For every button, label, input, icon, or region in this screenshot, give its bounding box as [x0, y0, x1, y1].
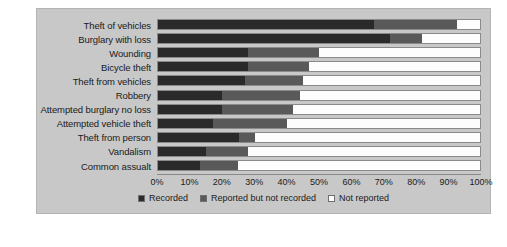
- stacked-bar: [157, 75, 481, 86]
- x-tick-label: 0%: [150, 177, 163, 187]
- bar-segment: [200, 161, 239, 170]
- stacked-bar: [157, 118, 481, 129]
- legend-label: Recorded: [149, 193, 188, 203]
- chart-legend: RecordedReported but not recordedNot rep…: [37, 193, 490, 203]
- stacked-bar: [157, 132, 481, 143]
- bar-segment: [293, 105, 480, 114]
- stacked-bar: [157, 61, 481, 72]
- bar-segment: [158, 133, 239, 142]
- chart-panel: Theft of vehiclesBurglary with lossWound…: [36, 8, 491, 214]
- category-label: Common assualt: [35, 160, 151, 173]
- stacked-bar: [157, 90, 481, 101]
- bar-segment: [158, 105, 222, 114]
- x-tick-label: 100%: [469, 177, 492, 187]
- x-tick-label: 20%: [213, 177, 231, 187]
- bar-segment: [158, 161, 200, 170]
- legend-label: Reported but not recorded: [211, 193, 316, 203]
- bar-segment: [255, 133, 480, 142]
- category-label: Burglary with loss: [35, 33, 151, 46]
- x-tick-label: 70%: [375, 177, 393, 187]
- category-label: Bicycle theft: [35, 61, 151, 74]
- bar-segment: [248, 147, 480, 156]
- bar-segment: [457, 20, 480, 29]
- bar-segment: [158, 147, 206, 156]
- bar-segment: [239, 133, 255, 142]
- x-tick-label: 80%: [407, 177, 425, 187]
- bar-segment: [158, 91, 222, 100]
- stacked-bar: [157, 47, 481, 58]
- x-tick-label: 50%: [310, 177, 328, 187]
- bar-row: Vandalism: [37, 145, 481, 159]
- legend-swatch: [138, 195, 145, 202]
- bar-segment: [158, 119, 213, 128]
- bar-segment: [303, 76, 480, 85]
- bar-segment: [319, 48, 480, 57]
- legend-label: Not reported: [339, 193, 389, 203]
- stacked-bar: [157, 19, 481, 30]
- x-tick-label: 30%: [245, 177, 263, 187]
- bar-row: Theft from vehicles: [37, 74, 481, 88]
- bar-row: Common assualt: [37, 159, 481, 173]
- bar-segment: [238, 161, 480, 170]
- bar-segment: [248, 48, 319, 57]
- stacked-bar: [157, 104, 481, 115]
- bar-row: Theft of vehicles: [37, 18, 481, 32]
- x-tick-label: 10%: [180, 177, 198, 187]
- category-label: Attempted burglary no loss: [35, 103, 151, 116]
- bar-segment: [374, 20, 458, 29]
- bar-segment: [300, 91, 480, 100]
- bar-segment: [158, 20, 374, 29]
- bar-segment: [206, 147, 248, 156]
- stacked-bar: [157, 33, 481, 44]
- plot-area: Theft of vehiclesBurglary with lossWound…: [37, 9, 490, 213]
- bar-segment: [222, 105, 293, 114]
- bar-row: Bicycle theft: [37, 60, 481, 74]
- bar-segment: [245, 76, 303, 85]
- bar-segment: [422, 34, 480, 43]
- bar-segment: [309, 62, 480, 71]
- stacked-bar: [157, 146, 481, 157]
- bar-segment: [248, 62, 309, 71]
- legend-item[interactable]: Recorded: [138, 193, 188, 203]
- bar-segment: [158, 76, 245, 85]
- bar-segment: [158, 48, 248, 57]
- category-label: Attempted vehicle theft: [35, 117, 151, 130]
- bar-row: Attempted vehicle theft: [37, 117, 481, 131]
- legend-item[interactable]: Reported but not recorded: [200, 193, 316, 203]
- bar-row: Robbery: [37, 89, 481, 103]
- bar-segment: [158, 34, 390, 43]
- x-tick-label: 60%: [342, 177, 360, 187]
- category-label: Vandalism: [35, 145, 151, 158]
- category-label: Theft from vehicles: [35, 75, 151, 88]
- bar-row: Burglary with loss: [37, 32, 481, 46]
- bar-row: Attempted burglary no loss: [37, 103, 481, 117]
- category-label: Theft of vehicles: [35, 19, 151, 32]
- stacked-bar: [157, 160, 481, 171]
- bar-segment: [213, 119, 287, 128]
- category-label: Robbery: [35, 89, 151, 102]
- x-axis-line: [157, 174, 481, 175]
- x-tick-label: 40%: [278, 177, 296, 187]
- bar-row: Wounding: [37, 46, 481, 60]
- legend-item[interactable]: Not reported: [328, 193, 389, 203]
- category-label: Theft from person: [35, 131, 151, 144]
- legend-swatch: [328, 195, 335, 202]
- bar-segment: [158, 62, 248, 71]
- category-label: Wounding: [35, 47, 151, 60]
- x-tick-label: 90%: [440, 177, 458, 187]
- bar-segment: [390, 34, 422, 43]
- bar-segment: [222, 91, 299, 100]
- bar-segment: [287, 119, 480, 128]
- x-axis-ticks: 0%10%20%30%40%50%60%70%80%90%100%: [37, 177, 481, 191]
- legend-swatch: [200, 195, 207, 202]
- bar-row: Theft from person: [37, 131, 481, 145]
